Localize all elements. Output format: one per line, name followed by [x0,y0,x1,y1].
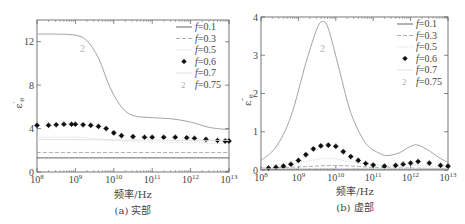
data-marker [53,122,59,128]
legend-item: f=0.3 [176,33,216,44]
data-marker [34,123,40,129]
marker-2-b: 2 [320,43,325,54]
data-marker [96,124,102,130]
data-marker [400,161,406,167]
data-marker [415,159,421,165]
svg-text:0: 0 [253,165,258,176]
svg-text:f=0.7: f=0.7 [195,67,216,78]
svg-text:1: 1 [253,126,258,137]
svg-text:3: 3 [253,50,258,61]
legend-item: f=0.6 [402,53,437,64]
series-line [37,139,229,140]
svg-text:f=0.5: f=0.5 [195,44,216,55]
svg-text:f=0.6: f=0.6 [195,56,216,67]
svg-text:f=0.75: f=0.75 [195,79,221,90]
data-marker [226,138,232,144]
legend-item: f=0.7 [397,64,437,75]
legend-item: f=0.5 [176,44,216,55]
svg-text:f=0.7: f=0.7 [416,64,437,75]
data-marker [61,121,67,127]
svg-text:109: 109 [69,173,83,185]
data-marker [46,123,52,129]
data-marker [203,137,209,143]
panel-imaginary-part: 108109101010111012101301234 f=0.1f=0.3f=… [241,12,457,214]
svg-text:12: 12 [24,36,34,47]
caption-a: (a) 实部 [115,204,152,216]
svg-text:f=0.3: f=0.3 [416,30,437,41]
data-marker [288,161,294,167]
svg-text:109: 109 [292,171,306,183]
svg-text:1011: 1011 [144,173,161,185]
svg-text:f=0.6: f=0.6 [416,53,437,64]
legend-item: f=0.1 [176,21,216,32]
svg-text:f=0.1: f=0.1 [195,21,216,32]
data-marker [393,163,399,169]
data-marker [326,142,332,148]
legend-item: f=0.6 [181,56,216,67]
data-marker [149,134,155,140]
svg-text:f=0.5: f=0.5 [416,41,437,52]
legend-item: 2f=0.75 [181,79,221,90]
data-marker [142,134,148,140]
svg-text:1010: 1010 [105,173,123,185]
y-axis-label-a: ε′e [12,98,26,109]
data-marker [103,126,109,132]
data-marker [427,160,433,166]
data-marker [73,121,79,127]
legend-item: f=0.3 [397,30,437,41]
legend-item: f=0.5 [397,41,437,52]
svg-text:1010: 1010 [327,171,345,183]
marker-2-a: 2 [80,43,85,54]
data-marker [355,158,361,164]
chart-figure: 108109101010111012101304812 f=0.1f=0.3f=… [0,0,465,224]
y-axis-label-b: ε″e [241,94,255,106]
data-marker [111,130,117,136]
panel-real-part: 108109101010111012101304812 f=0.1f=0.3f=… [12,20,238,216]
svg-text:f=0.3: f=0.3 [195,33,216,44]
svg-text:1012: 1012 [402,171,420,183]
svg-text:1013: 1013 [440,171,458,183]
svg-text:1013: 1013 [221,173,239,185]
data-marker [318,143,324,149]
svg-text:2: 2 [402,77,407,87]
data-marker [80,122,86,128]
svg-text:4: 4 [29,123,34,134]
data-marker [340,149,346,155]
svg-text:f=0.1: f=0.1 [416,18,437,29]
svg-text:f=0.75: f=0.75 [416,76,442,87]
data-marker [363,161,369,167]
x-axis-label-a: 频率/Hz [114,188,151,200]
data-marker [333,143,339,149]
legend-item: 2f=0.75 [402,76,442,87]
svg-text:2: 2 [181,80,186,90]
data-marker [311,146,317,152]
svg-text:1011: 1011 [365,171,382,183]
legend-item: f=0.7 [176,67,216,78]
data-marker [119,133,125,139]
legend-item: f=0.1 [397,18,437,29]
x-axis-label-b: 频率/Hz [336,185,373,197]
svg-text:8: 8 [29,80,34,91]
data-marker [382,163,388,169]
caption-b: (b) 虚部 [336,201,373,213]
data-marker [438,163,444,169]
data-marker [88,123,94,129]
svg-text:4: 4 [253,12,258,23]
legend-a: f=0.1f=0.3f=0.5f=0.6f=0.72f=0.75 [176,21,221,90]
data-marker [184,135,190,141]
data-marker [303,152,309,158]
data-marker [130,134,136,140]
svg-text:0: 0 [29,167,34,178]
data-marker [348,154,354,160]
svg-text:1012: 1012 [182,173,200,185]
data-marker [172,134,178,140]
legend-b: f=0.1f=0.3f=0.5f=0.6f=0.72f=0.75 [397,18,442,87]
series-line [261,159,448,167]
data-marker [161,134,167,140]
